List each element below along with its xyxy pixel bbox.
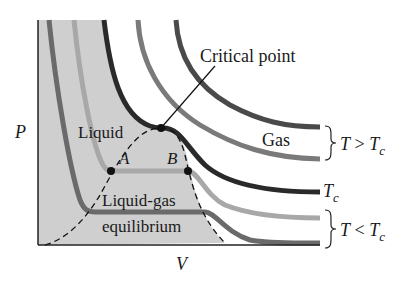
brace-below-tc-icon bbox=[325, 210, 336, 248]
label-critical-tc: Tc bbox=[323, 181, 339, 205]
isotherm-above-tc-high bbox=[176, 20, 320, 127]
equilibrium-label: equilibrium bbox=[102, 217, 181, 236]
y-axis-label: P bbox=[14, 122, 26, 142]
point-a-marker bbox=[107, 167, 115, 175]
point-b-marker bbox=[184, 167, 192, 175]
liquid-label: Liquid bbox=[78, 123, 124, 142]
x-axis-label: V bbox=[176, 254, 189, 274]
point-b-label: B bbox=[167, 149, 178, 168]
point-a-label: A bbox=[118, 149, 130, 168]
brace-above-tc-icon bbox=[325, 126, 336, 160]
gas-label: Gas bbox=[262, 130, 290, 150]
critical-point-marker bbox=[157, 124, 165, 132]
critical-point-label: Critical point bbox=[200, 46, 295, 66]
liquid-gas-label: Liquid-gas bbox=[102, 191, 176, 210]
pv-diagram: Critical point Liquid A B Liquid-gas equ… bbox=[0, 0, 411, 285]
label-above-tc: T > Tc bbox=[340, 134, 385, 158]
label-below-tc: T < Tc bbox=[340, 220, 385, 244]
